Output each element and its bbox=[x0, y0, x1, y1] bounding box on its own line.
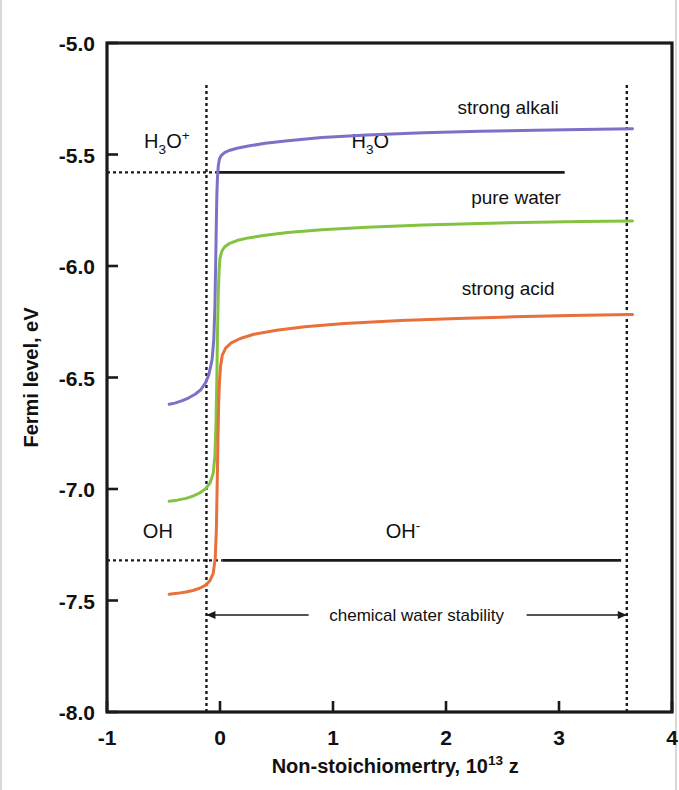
y-axis-tick-label: -6.5 bbox=[59, 367, 96, 390]
series-curve-pure-water bbox=[169, 221, 632, 501]
x-axis-title: Non-stoichiomertry, 1013 z bbox=[272, 753, 519, 777]
x-axis-tick-label: -1 bbox=[98, 726, 117, 749]
y-axis-tick-label: -6.0 bbox=[59, 255, 95, 278]
stability-arrowhead-left bbox=[206, 611, 215, 619]
x-axis-tick-label: 4 bbox=[666, 726, 678, 749]
y-axis-title: Fermi level, eV bbox=[20, 307, 42, 448]
series-label-strong-acid: strong acid bbox=[462, 278, 555, 299]
oh-minus-label: OH- bbox=[386, 518, 421, 542]
y-axis-tick-label: -5.0 bbox=[59, 32, 95, 55]
x-axis-tick-label: 1 bbox=[327, 726, 339, 749]
y-axis-tick-label: -5.5 bbox=[59, 144, 96, 167]
x-axis-tick-label: 0 bbox=[214, 726, 226, 749]
y-axis-tick-label: -7.0 bbox=[59, 478, 95, 501]
series-label-pure-water: pure water bbox=[471, 187, 561, 208]
oh-label: OH bbox=[143, 520, 173, 542]
fermi-level-chart: -5.0-5.5-6.0-6.5-7.0-7.5-8.0-101234Fermi… bbox=[2, 0, 679, 790]
x-axis-tick-label: 2 bbox=[440, 726, 452, 749]
y-axis-tick-label: -7.5 bbox=[59, 590, 96, 613]
stability-annotation-label: chemical water stability bbox=[329, 606, 504, 625]
h3o-plus-label: H3O+ bbox=[144, 128, 190, 157]
stability-arrowhead-right bbox=[618, 611, 627, 619]
series-curve-strong-alkali bbox=[169, 129, 632, 404]
series-label-strong-alkali: strong alkali bbox=[457, 97, 558, 118]
series-curve-strong-acid bbox=[169, 315, 632, 595]
x-axis-tick-label: 3 bbox=[553, 726, 565, 749]
y-axis-tick-label: -8.0 bbox=[59, 701, 95, 724]
